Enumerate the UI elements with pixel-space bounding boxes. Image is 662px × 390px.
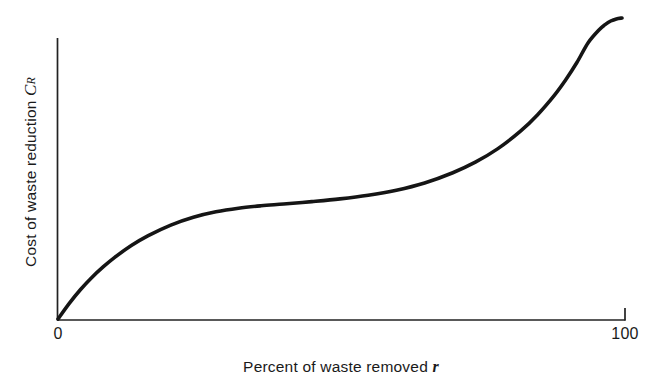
chart-background (0, 0, 662, 390)
x-tick-label-0: 0 (47, 325, 69, 343)
x-axis-label-text: Percent of waste removed (243, 358, 428, 375)
x-axis-label: Percent of waste removed r (57, 358, 625, 376)
chart-figure: Cost of waste reduction CR Percent of wa… (0, 0, 662, 390)
x-axis-variable-r: r (432, 358, 438, 375)
chart-canvas (0, 0, 662, 390)
x-tick-label-100: 100 (598, 325, 652, 343)
